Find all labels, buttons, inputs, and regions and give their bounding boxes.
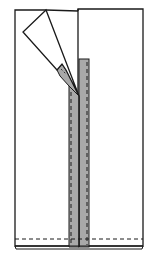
left-zipper-tape: [69, 86, 79, 247]
sewing-diagram: [0, 0, 150, 257]
right-zipper-tape: [79, 59, 89, 247]
